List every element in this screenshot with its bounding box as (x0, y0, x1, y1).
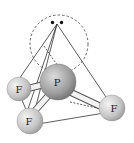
fluorine-atom-left: F (7, 77, 31, 101)
lone-pair-dot (51, 21, 54, 24)
fluorine-atom-bottom: F (17, 108, 43, 134)
pf3-molecule-diagram: F P F F (0, 0, 134, 143)
atom-label: F (16, 84, 23, 95)
fluorine-atom-right: F (99, 95, 125, 121)
atom-label: P (54, 77, 61, 88)
lone-pair-dot (60, 21, 63, 24)
atom-label: F (26, 116, 33, 127)
atom-label: F (111, 103, 118, 114)
phosphorus-atom: P (40, 64, 76, 100)
